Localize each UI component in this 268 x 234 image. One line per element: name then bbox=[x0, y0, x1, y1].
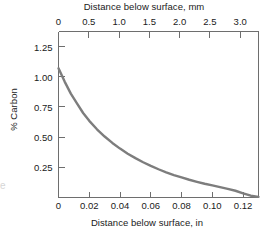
bottom-tick-label-0: 0 bbox=[56, 200, 61, 211]
bottom-tick-label-2: 0.04 bbox=[111, 200, 130, 211]
bottom-tick-label-3: 0.06 bbox=[142, 200, 161, 211]
cropped-neighbor-glyph: e bbox=[0, 180, 6, 191]
carbon-concentration-curve bbox=[59, 68, 259, 197]
bottom-tick-label-5: 0.10 bbox=[203, 200, 222, 211]
top-tick-label-2: 1.0 bbox=[112, 16, 125, 27]
top-tick-label-5: 2.5 bbox=[203, 16, 216, 27]
y-tick-label-0: 0.25 bbox=[12, 162, 53, 173]
top-axis-title: Distance below surface, mm bbox=[0, 1, 268, 12]
axes-group bbox=[59, 32, 259, 198]
y-tick-label-2: 0.75 bbox=[12, 101, 53, 112]
bottom-axis-title: Distance below surface, in bbox=[0, 217, 268, 228]
plot-area bbox=[0, 0, 268, 234]
data-curve-group bbox=[59, 68, 259, 197]
carbon-profile-chart: Distance below surface, mm % Carbon Dist… bbox=[0, 0, 268, 234]
top-tick-label-3: 1.5 bbox=[143, 16, 156, 27]
y-tick-label-3: 1.00 bbox=[12, 71, 53, 82]
top-tick-label-1: 0.5 bbox=[82, 16, 95, 27]
y-tick-label-1: 0.50 bbox=[12, 132, 53, 143]
bottom-tick-label-1: 0.02 bbox=[80, 200, 99, 211]
bottom-tick-label-6: 0.12 bbox=[234, 200, 253, 211]
top-tick-label-0: 0 bbox=[56, 16, 61, 27]
bottom-tick-label-4: 0.08 bbox=[172, 200, 191, 211]
y-tick-label-4: 1.25 bbox=[12, 41, 53, 52]
top-tick-label-6: 3.0 bbox=[234, 16, 247, 27]
top-tick-label-4: 2.0 bbox=[173, 16, 186, 27]
